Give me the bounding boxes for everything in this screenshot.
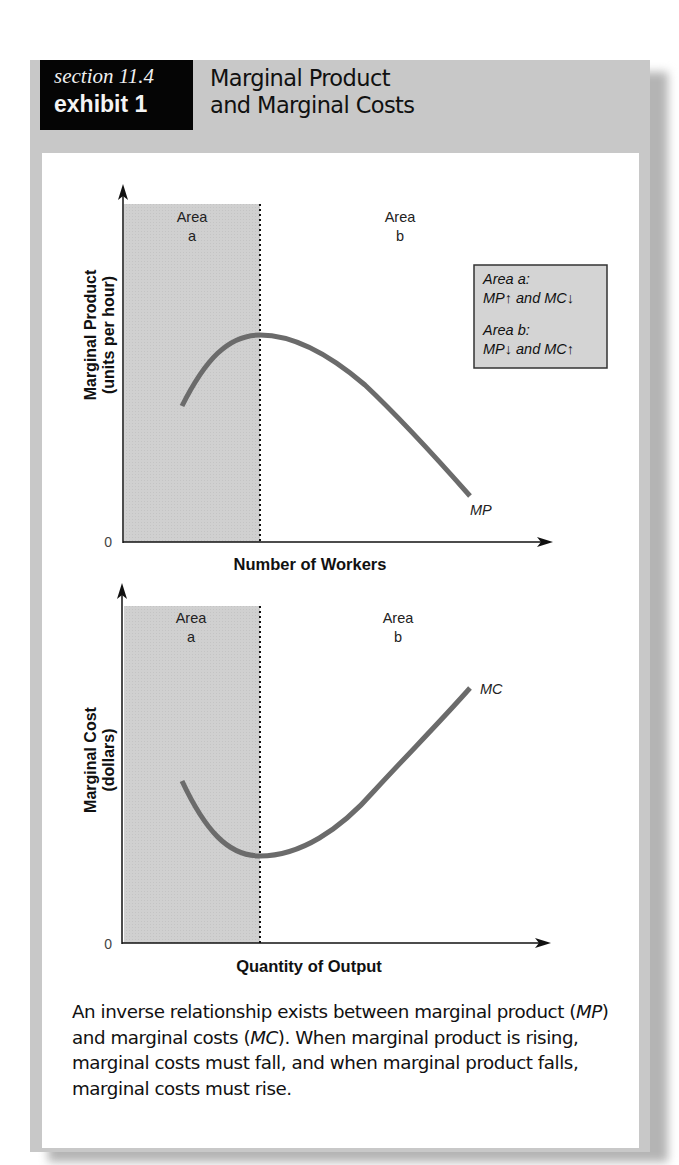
caption-mp: MP (576, 1001, 602, 1022)
y-axis-label-line1: Marginal Product (82, 269, 99, 400)
area-a-label-line1: Area (177, 209, 209, 225)
legend-area-a-desc: MP↑ and MC↓ (483, 290, 574, 306)
mc-curve-label: MC (480, 681, 503, 697)
area-a-shading (124, 204, 260, 542)
area-b-label-line2: b (394, 629, 402, 645)
y-axis-label-line2: (units per hour) (100, 276, 117, 394)
legend-area-a-title: Area a: (482, 271, 530, 287)
y-axis-label-line2: (dollars) (100, 728, 117, 791)
area-b-label-line1: Area (383, 610, 415, 626)
area-a-shading (124, 606, 260, 943)
origin-label: 0 (104, 936, 112, 952)
area-b-label-line1: Area (385, 209, 417, 225)
mp-curve-label: MP (470, 502, 492, 518)
x-axis-label: Quantity of Output (236, 957, 382, 975)
mc-chart: Area a Area b MC 0 Quantity of Output Ma… (82, 583, 551, 975)
area-legend: Area a: MP↑ and MC↓ Area b: MP↓ and MC↑ (474, 265, 607, 368)
exhibit-caption: An inverse relationship exists between m… (72, 999, 612, 1101)
x-axis-label: Number of Workers (234, 555, 387, 573)
legend-area-b-desc: MP↓ and MC↑ (483, 341, 574, 357)
y-axis-label-line1: Marginal Cost (82, 706, 99, 812)
mp-chart: Area a Area b MP 0 Number of Workers Mar… (82, 184, 607, 573)
origin-label: 0 (104, 534, 112, 550)
legend-area-b-title: Area b: (482, 322, 530, 338)
area-a-label-line2: a (187, 629, 196, 645)
caption-mc: MC (250, 1027, 278, 1048)
charts-canvas: Area a Area b MP 0 Number of Workers Mar… (0, 0, 679, 1165)
area-a-label-line2: a (188, 228, 197, 244)
area-b-label-line2: b (396, 228, 404, 244)
area-a-label-line1: Area (176, 610, 208, 626)
